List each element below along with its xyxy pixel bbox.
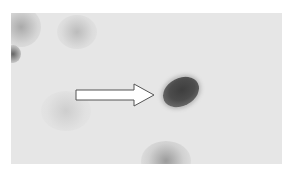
blot-image xyxy=(11,13,282,164)
target-dark-spot xyxy=(158,71,205,114)
faint-spot-bottom xyxy=(141,141,191,164)
arrow-right-icon xyxy=(75,83,155,113)
faint-spot-top xyxy=(57,15,97,49)
faint-spot-top-left xyxy=(11,13,41,47)
dark-spot-left-edge xyxy=(11,45,21,63)
